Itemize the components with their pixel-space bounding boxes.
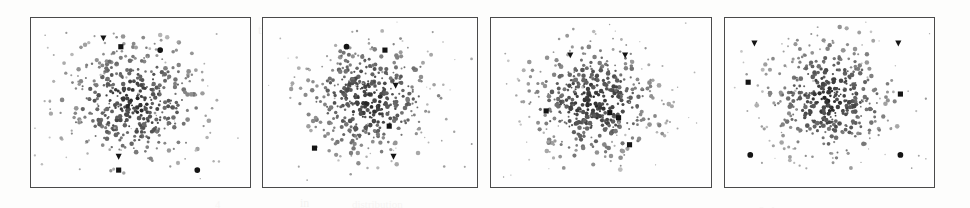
cloud-point	[114, 107, 116, 109]
cloud-point	[794, 90, 797, 93]
cloud-point	[348, 119, 353, 124]
cloud-point	[517, 78, 519, 80]
cloud-point	[767, 86, 770, 89]
cloud-point	[349, 173, 352, 176]
cloud-point	[734, 87, 736, 89]
cloud-point	[99, 74, 101, 76]
cloud-point	[808, 127, 812, 131]
cloud-point	[847, 70, 849, 72]
cloud-point	[174, 120, 175, 121]
cloud-point	[515, 94, 517, 96]
cloud-point	[867, 67, 871, 71]
cloud-point	[575, 113, 579, 117]
cloud-point	[552, 156, 555, 159]
cloud-point	[334, 97, 336, 99]
cloud-point	[582, 131, 585, 134]
cloud-point	[151, 82, 155, 86]
cloud-point	[628, 95, 633, 100]
cloud-point	[606, 146, 611, 151]
cloud-point	[98, 66, 101, 69]
cloud-point	[354, 134, 357, 137]
cloud-point	[140, 109, 144, 113]
cloud-point	[810, 51, 814, 55]
cloud-point	[93, 35, 95, 37]
cloud-point	[746, 110, 748, 112]
cloud-point	[344, 59, 348, 63]
cloud-point	[887, 119, 889, 121]
cloud-point	[385, 104, 390, 109]
cloud-point	[812, 80, 814, 82]
cloud-point	[861, 69, 864, 72]
cloud-point	[177, 63, 181, 67]
cloud-point	[632, 122, 635, 125]
cloud-point	[470, 58, 473, 61]
cloud-point	[824, 100, 828, 104]
cloud-point	[798, 91, 802, 95]
cloud-point	[547, 94, 552, 99]
cloud-point	[624, 62, 628, 66]
cloud-point	[101, 111, 105, 115]
cloud-point	[630, 60, 633, 63]
cloud-point	[553, 51, 555, 53]
scatter-panel-4	[724, 17, 935, 188]
cloud-point	[825, 80, 828, 83]
cloud-point	[840, 93, 842, 95]
cloud-point	[552, 135, 555, 138]
cloud-point	[410, 85, 414, 89]
cloud-point	[845, 26, 849, 30]
cloud-point	[86, 97, 88, 99]
cloud-point	[175, 110, 179, 114]
cloud-point	[817, 35, 819, 37]
cloud-point	[870, 31, 873, 34]
cloud-point	[159, 100, 161, 102]
cloud-point	[364, 131, 367, 134]
cloud-point	[606, 77, 609, 80]
cloud-point	[351, 54, 355, 58]
cloud-point	[641, 117, 645, 121]
cloud-point	[140, 59, 144, 63]
cloud-point	[791, 99, 795, 103]
cloud-point	[331, 69, 334, 72]
cloud-point	[527, 89, 531, 93]
cloud-point	[595, 33, 597, 35]
cloud-point	[88, 97, 91, 100]
cloud-point	[841, 48, 846, 53]
cloud-point	[355, 84, 357, 86]
cloud-point	[157, 141, 160, 144]
cloud-point	[119, 72, 122, 75]
cloud-point	[740, 50, 743, 53]
cloud-point	[859, 132, 862, 135]
cloud-point	[150, 88, 153, 91]
cloud-point	[653, 114, 657, 118]
cloud-point	[598, 114, 602, 118]
cloud-point	[813, 125, 817, 129]
cloud-point	[41, 163, 43, 165]
cloud-point	[158, 33, 163, 38]
cloud-point	[608, 88, 611, 91]
cloud-point	[536, 121, 540, 125]
marker-triangle-down	[895, 41, 901, 47]
cloud-point	[393, 150, 395, 152]
cloud-point	[821, 38, 825, 42]
cloud-point	[843, 99, 846, 102]
cloud-point	[793, 162, 795, 164]
cloud-point	[884, 154, 885, 155]
cloud-point	[139, 89, 142, 92]
cloud-point	[636, 123, 639, 126]
cloud-point	[106, 85, 108, 87]
cloud-point	[830, 116, 832, 118]
cloud-point	[630, 76, 632, 78]
cloud-point	[844, 112, 848, 116]
cloud-point	[640, 114, 642, 116]
cloud-point	[327, 112, 329, 114]
cloud-point	[108, 148, 111, 151]
cloud-point	[590, 115, 591, 116]
cloud-point	[576, 95, 579, 98]
cloud-point	[177, 41, 180, 44]
cloud-point	[356, 30, 358, 32]
cloud-point	[624, 134, 626, 136]
cloud-point	[132, 107, 135, 110]
cloud-point	[122, 134, 125, 137]
cloud-point	[400, 134, 402, 136]
cloud-point	[599, 49, 602, 52]
